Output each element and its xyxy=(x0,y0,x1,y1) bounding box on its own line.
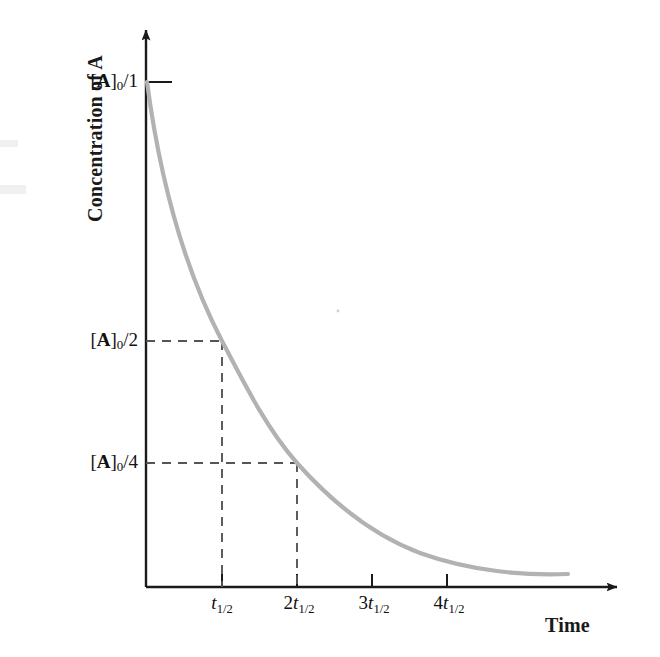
x-tick-marks xyxy=(222,574,447,587)
y-tick-3-denominator: 4 xyxy=(129,451,139,472)
x-tick-4-subscript: 1/2 xyxy=(448,602,464,616)
x-tick-3-coefficient: 3 xyxy=(359,592,369,613)
speck-artifact xyxy=(337,310,340,313)
y-tick-2-species: A xyxy=(97,329,111,350)
y-tick-label-a0-over-4: [A]0/4 xyxy=(90,451,138,476)
y-tick-3-species: A xyxy=(97,451,111,472)
x-tick-label-3: 3t1/2 xyxy=(359,592,390,617)
x-tick-label-2: 2t1/2 xyxy=(284,592,315,617)
y-tick-2-denominator: 2 xyxy=(129,329,139,350)
x-tick-1-subscript: 1/2 xyxy=(217,602,233,616)
y-tick-1-denominator: 1 xyxy=(129,70,139,91)
x-tick-label-4: 4t1/2 xyxy=(434,592,465,617)
x-tick-label-1: t1/2 xyxy=(211,592,232,617)
decay-curve xyxy=(147,82,568,574)
x-tick-2-subscript: 1/2 xyxy=(298,602,314,616)
half-life-guides xyxy=(146,341,297,587)
y-tick-1-species: A xyxy=(97,70,111,91)
x-tick-2-coefficient: 2 xyxy=(284,592,294,613)
x-tick-4-coefficient: 4 xyxy=(434,592,444,613)
axes-group xyxy=(146,30,617,587)
y-tick-label-a0-over-1: [A]0/1 xyxy=(90,70,138,95)
y-tick-label-a0-over-2: [A]0/2 xyxy=(90,329,138,354)
concentration-vs-time-chart: Concentration of A Time [A]0/1 [A]0/2 [A… xyxy=(0,0,660,657)
x-axis-title: Time xyxy=(545,614,590,637)
x-tick-3-subscript: 1/2 xyxy=(373,602,389,616)
